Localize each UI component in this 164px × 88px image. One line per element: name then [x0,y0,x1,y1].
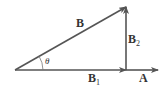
label-b2: B2 [128,32,140,48]
label-b: B [76,16,84,30]
label-b2-subscript: 2 [136,39,140,48]
label-b1-subscript: 1 [96,78,100,87]
vector-diagram: B B2 B1 A θ [0,0,164,88]
label-b1: B1 [88,71,100,87]
label-a: A [139,71,148,85]
label-theta: θ [45,56,50,66]
vector-b-arrow [15,7,126,70]
angle-theta-arc [39,56,43,70]
